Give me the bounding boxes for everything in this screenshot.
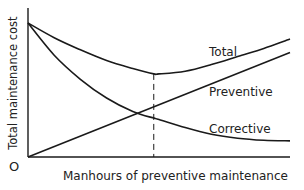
total-curve-label: Total xyxy=(209,46,237,58)
total-cost-curve xyxy=(28,23,290,74)
corrective-curve-label: Corrective xyxy=(209,123,271,135)
x-axis-label: Manhours of preventive maintenance xyxy=(63,170,288,182)
origin-label: O xyxy=(9,160,19,173)
preventive-curve-label: Preventive xyxy=(209,86,273,98)
y-axis-label: Total maintenance cost xyxy=(8,30,20,150)
